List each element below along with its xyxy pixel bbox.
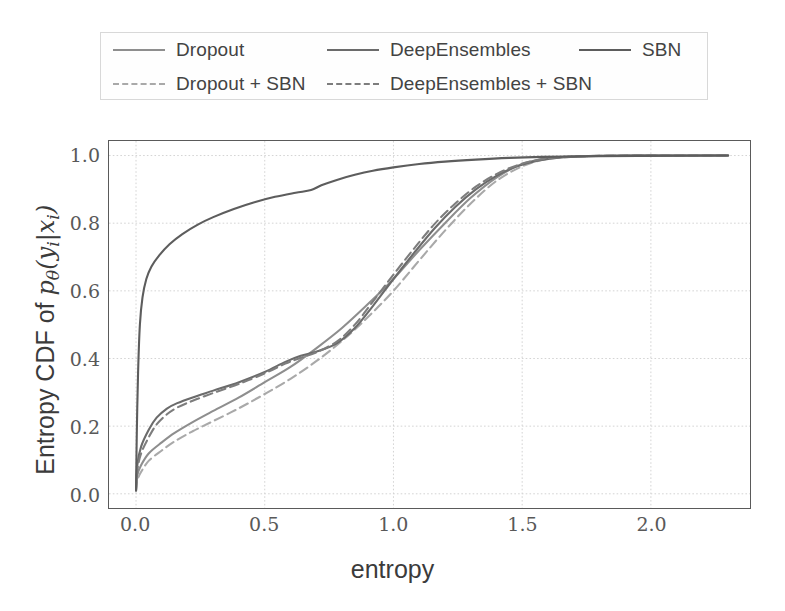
data-layer [109,141,750,508]
y-axis-math-y: y [32,247,60,261]
series-line-deepensembles-sbn [136,156,728,490]
y-axis-math-open: ( [32,260,60,269]
y-axis-math-bar: | [32,233,60,241]
legend-entry-deepensembles-sbn[interactable]: DeepEnsembles + SBN [327,73,579,95]
series-line-dropout [136,155,728,490]
y-axis-math-p: p [32,280,60,295]
x-tick-label-4: 2.0 [636,513,666,535]
legend-entry-sbn[interactable]: SBN [579,39,719,61]
legend-swatch-dropout [113,49,165,51]
y-axis-label: Entropy CDF of pθ(yi|xi) [31,140,62,540]
legend-entry-dropout-sbn[interactable]: Dropout + SBN [113,73,327,95]
legend-entry-dropout[interactable]: Dropout [113,39,327,61]
y-axis-math-theta: θ [43,270,63,280]
y-axis-math-i-1: i [43,241,63,247]
plot-area [108,140,751,509]
legend-swatch-deepensembles [327,49,379,51]
legend-label-sbn: SBN [642,39,681,61]
legend-label-dropout-sbn: Dropout + SBN [176,73,306,95]
y-axis-math-x: x [32,220,60,234]
legend-swatch-sbn [579,49,631,51]
x-tick-label-3: 1.5 [507,513,537,535]
x-tick-label-1: 0.5 [249,513,279,535]
legend-swatch-dropout-sbn [113,83,165,85]
y-axis-label-text: Entropy CDF of [31,296,59,475]
legend-label-dropout: Dropout [176,39,244,61]
figure-entropy-cdf-plot: Dropout DeepEnsembles SBN Dropout + SBN … [0,0,785,611]
legend-label-deepensembles-sbn: DeepEnsembles + SBN [390,73,592,95]
series-line-sbn [136,156,728,491]
x-tick-label-2: 1.0 [378,513,408,535]
y-axis-math-close: ) [32,205,60,214]
y-axis-math-i-2: i [43,214,63,220]
legend-box: Dropout DeepEnsembles SBN Dropout + SBN … [100,32,708,100]
legend-label-deepensembles: DeepEnsembles [390,39,531,61]
series-line-dropout-sbn [136,155,728,491]
series-line-deepensembles [136,156,728,489]
legend-swatch-deepensembles-sbn [327,83,379,85]
x-tick-label-0: 0.0 [120,513,150,535]
legend-entry-deepensembles[interactable]: DeepEnsembles [327,39,579,61]
x-axis-label: entropy [0,555,785,584]
